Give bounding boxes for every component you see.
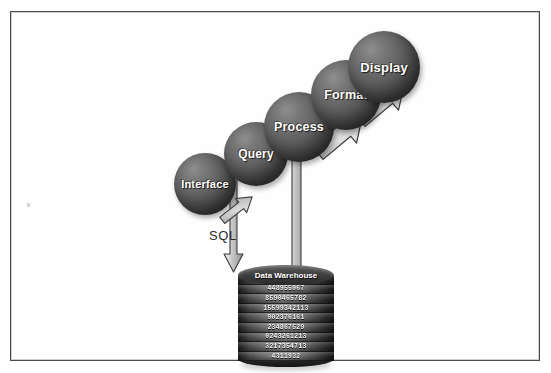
warehouse-data-row: 448955067 <box>238 285 334 295</box>
warehouse-data-row: 902376161 <box>238 313 334 323</box>
warehouse-data-row: 15599342113 <box>238 304 334 314</box>
warehouse-label: Data Warehouse <box>255 271 317 280</box>
warehouse-data-row: 3217354713 <box>238 342 334 352</box>
warehouse-row-text: 234867529 <box>267 323 304 331</box>
warehouse-row-text: 15599342113 <box>263 304 309 312</box>
sql-label: SQL <box>209 228 237 243</box>
warehouse-top-ellipse: Data Warehouse <box>238 265 334 285</box>
warehouse-row-text: 902376161 <box>267 314 304 322</box>
warehouse-body: 0202489553 448955067 8590465782 15599342… <box>238 275 334 361</box>
stage-label-process: Process <box>274 120 324 134</box>
warehouse-row-text: 8590465782 <box>265 295 306 303</box>
diagram-canvas: Interface Query Process Format Display S… <box>0 0 551 373</box>
data-warehouse-cylinder[interactable]: 0202489553 448955067 8590465782 15599342… <box>238 265 334 366</box>
stage-label-interface: Interface <box>181 178 229 190</box>
warehouse-data-row: 4311932 <box>238 352 334 361</box>
warehouse-data-row: 0243261213 <box>238 333 334 343</box>
warehouse-data-row: 8590465782 <box>238 294 334 304</box>
warehouse-row-text: 3217354713 <box>265 343 306 351</box>
stage-label-display: Display <box>360 60 408 75</box>
warehouse-data-row: 234867529 <box>238 323 334 333</box>
warehouse-row-text: 4311932 <box>272 352 301 360</box>
warehouse-row-text: 448955067 <box>267 285 304 293</box>
warehouse-row-text: 0243261213 <box>265 333 306 341</box>
stage-sphere-display[interactable]: Display <box>348 31 420 103</box>
scan-speck <box>27 203 30 207</box>
diagram-frame: Interface Query Process Format Display S… <box>10 11 540 361</box>
stage-label-query: Query <box>238 147 274 161</box>
